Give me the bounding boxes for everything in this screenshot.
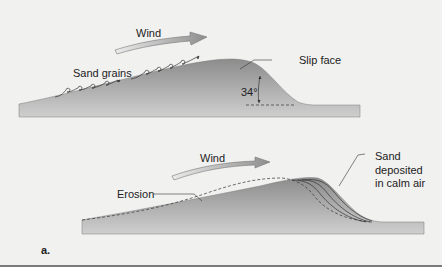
deposit-leader bbox=[339, 154, 365, 186]
sand-grains-label: Sand grains bbox=[73, 67, 132, 79]
deposit-label-line1: Sand bbox=[375, 150, 401, 162]
bottom-dune bbox=[82, 177, 424, 234]
slip-angle-label: 34° bbox=[241, 86, 258, 98]
top-dune bbox=[19, 59, 360, 117]
deposit-label-line3: in calm air bbox=[375, 177, 425, 189]
panel-label: a. bbox=[41, 244, 50, 256]
bottom-wind-label: Wind bbox=[200, 152, 225, 164]
deposit-label-line2: deposited bbox=[375, 164, 423, 176]
slip-face-label: Slip face bbox=[299, 54, 341, 66]
dune-diagram-graphics bbox=[0, 0, 442, 267]
dune-diagram: Wind Sand grains Slip face 34° Wind Eros… bbox=[0, 0, 442, 267]
top-wind-label: Wind bbox=[136, 27, 161, 39]
erosion-label: Erosion bbox=[117, 188, 154, 200]
